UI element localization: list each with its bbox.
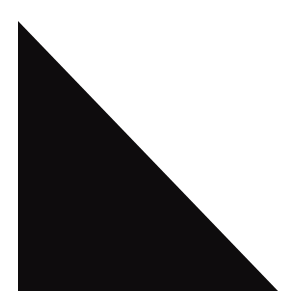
diagram-canvas (0, 0, 298, 297)
right-triangle (18, 21, 278, 291)
